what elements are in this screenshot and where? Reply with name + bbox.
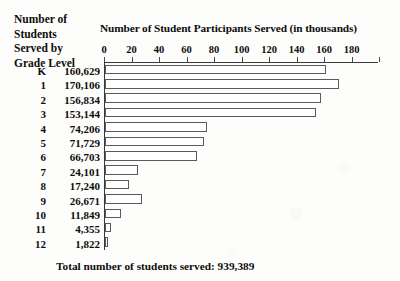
grade-value: 153,144 xyxy=(64,107,100,121)
bar-row xyxy=(105,193,380,207)
x-axis-tick-label: 160 xyxy=(316,44,332,55)
grade-label: 7 xyxy=(8,165,46,179)
table-row: 571,729 xyxy=(8,136,102,150)
x-axis-tick-label: 180 xyxy=(344,44,360,55)
grade-label: 5 xyxy=(8,136,46,150)
row-header-line: Served by xyxy=(14,41,102,56)
grade-value: 170,106 xyxy=(64,78,100,92)
x-axis-tick-label: 120 xyxy=(261,44,277,55)
bar-row xyxy=(105,207,380,221)
bar-grade-12 xyxy=(105,237,108,247)
table-row: 3153,144 xyxy=(8,107,102,121)
x-axis-tick-mark xyxy=(214,57,215,62)
grade-value: 24,101 xyxy=(70,165,100,179)
grade-label: 12 xyxy=(8,237,46,251)
bar-grade-4 xyxy=(105,122,207,132)
table-row: 926,671 xyxy=(8,194,102,208)
bar-row xyxy=(105,77,380,91)
x-axis-ticks xyxy=(104,57,380,62)
x-axis-tick-mark xyxy=(187,57,188,62)
bar-grade-9 xyxy=(105,194,142,204)
x-axis-tick-label: 140 xyxy=(289,44,305,55)
grade-value: 26,671 xyxy=(70,194,100,208)
bar-grade-11 xyxy=(105,223,111,233)
grade-value: 66,703 xyxy=(70,150,100,164)
grade-value: 160,629 xyxy=(64,64,100,78)
table-row: 1011,849 xyxy=(8,208,102,222)
bar-row xyxy=(105,221,380,235)
x-axis-tick-labels: 020406080100120140160180 xyxy=(104,44,380,58)
x-axis-tick-label: 40 xyxy=(154,44,165,55)
bar-grade-2 xyxy=(105,93,321,103)
x-axis-tick-mark xyxy=(379,57,380,62)
table-row: K160,629 xyxy=(8,64,102,78)
grade-label: 11 xyxy=(8,222,46,236)
bar-grade-10 xyxy=(105,209,121,219)
x-axis-tick-mark xyxy=(297,57,298,62)
grade-label: 3 xyxy=(8,107,46,121)
table-row: 121,822 xyxy=(8,237,102,251)
grade-label: 4 xyxy=(8,122,46,136)
x-axis-tick-mark xyxy=(242,57,243,62)
x-axis-tick-mark xyxy=(159,57,160,62)
x-axis-tick-label: 0 xyxy=(101,44,106,55)
table-row: 817,240 xyxy=(8,179,102,193)
x-axis-tick-mark xyxy=(352,57,353,62)
grade-value: 11,849 xyxy=(70,208,100,222)
grade-label: 6 xyxy=(8,150,46,164)
chart-title: Number of Student Participants Served (i… xyxy=(100,22,357,34)
x-axis-tick-label: 60 xyxy=(181,44,192,55)
bar-grade-6 xyxy=(105,151,197,161)
bar-grade-5 xyxy=(105,137,204,147)
grade-label: 10 xyxy=(8,208,46,222)
grade-value: 156,834 xyxy=(64,93,100,107)
row-header-line: Students xyxy=(14,27,102,42)
bar-grade-7 xyxy=(105,165,138,175)
bar-row xyxy=(105,178,380,192)
grade-value: 17,240 xyxy=(70,179,100,193)
table-row: 724,101 xyxy=(8,165,102,179)
grade-value: 4,355 xyxy=(75,222,100,236)
x-axis-tick-mark xyxy=(324,57,325,62)
grade-label: K xyxy=(8,64,46,78)
bar-grade-1 xyxy=(105,79,339,89)
bar-row xyxy=(105,121,380,135)
bar-grade-3 xyxy=(105,108,316,118)
table-row: 114,355 xyxy=(8,222,102,236)
grade-value: 71,729 xyxy=(70,136,100,150)
bar-plot-area xyxy=(105,63,380,250)
bar-row xyxy=(105,164,380,178)
bar-row xyxy=(105,135,380,149)
bar-row xyxy=(105,63,380,77)
bar-grade-K xyxy=(105,65,326,75)
table-row: 474,206 xyxy=(8,122,102,136)
chart-page: Number ofStudentsServed byGrade Level Nu… xyxy=(0,0,400,281)
bar-row xyxy=(105,92,380,106)
bar-row xyxy=(105,106,380,120)
grade-value: 74,206 xyxy=(70,122,100,136)
x-axis-tick-label: 80 xyxy=(209,44,220,55)
total-served-note: Total number of students served: 939,389 xyxy=(56,260,254,272)
bar-row xyxy=(105,236,380,250)
x-axis-tick-mark xyxy=(269,57,270,62)
grade-label: 2 xyxy=(8,93,46,107)
bar-grade-8 xyxy=(105,180,129,190)
grade-label: 8 xyxy=(8,179,46,193)
table-row: 2156,834 xyxy=(8,93,102,107)
table-row: 666,703 xyxy=(8,150,102,164)
grade-value-table: K160,6291170,1062156,8343153,144474,2065… xyxy=(8,64,102,251)
table-row: 1170,106 xyxy=(8,78,102,92)
row-header-line: Number of xyxy=(14,12,102,27)
grade-label: 9 xyxy=(8,194,46,208)
x-axis-tick-mark xyxy=(132,57,133,62)
grade-label: 1 xyxy=(8,78,46,92)
x-axis-tick-label: 20 xyxy=(126,44,137,55)
grade-value: 1,822 xyxy=(75,237,100,251)
row-header-label: Number ofStudentsServed byGrade Level xyxy=(14,12,102,70)
bar-row xyxy=(105,149,380,163)
x-axis-tick-label: 100 xyxy=(234,44,250,55)
